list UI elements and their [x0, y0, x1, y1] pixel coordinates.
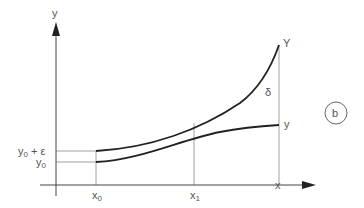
- diagram-canvas: y Y y δ y0 + ε y0 x0 x1 x b: [0, 0, 364, 208]
- upper-curve-Y: [96, 45, 279, 151]
- x1-label: x1: [190, 189, 201, 203]
- y-axis-arrow-icon: [52, 22, 60, 36]
- y-axis-label: y: [52, 7, 58, 19]
- lower-curve-label: y: [284, 118, 290, 130]
- x-axis-arrow-icon: [302, 181, 316, 189]
- y0-label: y0: [36, 156, 47, 170]
- x0-label: x0: [92, 189, 103, 203]
- panel-label: b: [332, 107, 338, 119]
- upper-curve-label: Y: [283, 37, 291, 49]
- gap-delta-label: δ: [265, 86, 271, 98]
- x-end-marker: x: [275, 179, 281, 191]
